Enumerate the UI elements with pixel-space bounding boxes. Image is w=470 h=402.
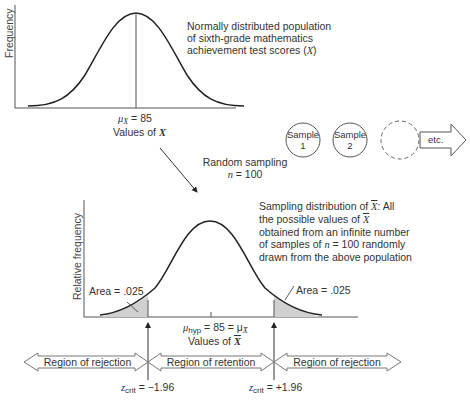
region-right-label: Region of rejection xyxy=(288,356,386,368)
sample-2: Sample 2 xyxy=(330,129,370,151)
region-middle-label: Region of retention xyxy=(162,356,260,368)
population-description: Normally distributed population of sixth… xyxy=(187,20,331,57)
sampling-y-axis-label: Relative frequency xyxy=(71,213,83,300)
area-left-label: Area = .025 xyxy=(89,285,144,297)
area-right-label: Area = .025 xyxy=(296,284,351,296)
region-left-label: Region of rejection xyxy=(40,356,135,368)
sample-1: Sample 1 xyxy=(283,129,323,151)
sampling-x-axis-label: Values of X xyxy=(188,335,241,348)
population-y-axis-label: Frequency xyxy=(3,8,15,58)
z-crit-left-label: zcrit = −1.96 xyxy=(121,381,174,397)
etc-label: etc. xyxy=(428,134,443,146)
sampling-distribution-description: Sampling distribution of X: All the poss… xyxy=(259,200,412,263)
random-sampling-label: Random sampling n = 100 xyxy=(190,156,300,181)
z-crit-right-label: zcrit = +1.96 xyxy=(249,381,302,397)
population-x-axis-label: Values of X xyxy=(113,126,166,139)
